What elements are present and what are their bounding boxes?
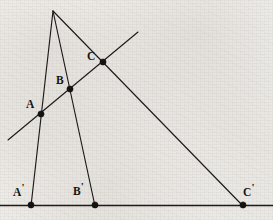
point-label-A: A [26, 99, 35, 111]
point-marker-A-prime [28, 202, 34, 208]
point-label-C-prime: C' [243, 187, 255, 199]
ray-vertex-to-B-prime [53, 11, 95, 206]
point-label-B-prime-letter: B [73, 185, 81, 197]
point-marker-C [100, 59, 106, 65]
point-label-C-prime-mark: ' [252, 181, 255, 193]
point-marker-B [67, 86, 73, 92]
figure-drawing-canvas [0, 0, 273, 220]
point-label-B-prime: B' [73, 186, 84, 198]
point-marker-A [38, 111, 44, 117]
point-label-B-prime-mark: ' [81, 180, 84, 192]
transversal-line [8, 32, 138, 140]
geometry-figure: A B C A' B' C' [0, 0, 273, 220]
point-label-A-prime: A' [13, 187, 25, 199]
point-label-A-prime-letter: A [13, 186, 21, 198]
point-marker-B-prime [92, 202, 98, 208]
ray-vertex-to-C-prime [53, 11, 243, 206]
point-label-C: C [87, 51, 96, 63]
point-label-B: B [56, 75, 64, 87]
point-marker-C-prime [240, 202, 246, 208]
point-label-A-letter: A [26, 98, 34, 110]
point-label-A-prime-mark: ' [22, 181, 25, 193]
point-label-B-letter: B [56, 74, 64, 86]
point-label-C-prime-letter: C [243, 186, 251, 198]
line-group [0, 11, 273, 206]
point-label-C-letter: C [87, 50, 95, 62]
